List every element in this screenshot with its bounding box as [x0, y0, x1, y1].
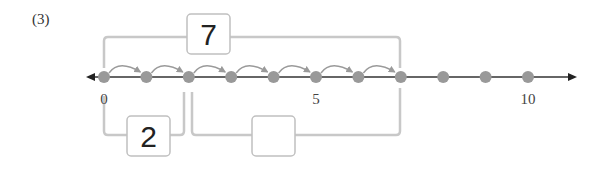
point-1: [140, 71, 152, 83]
tick-label-0: 0: [100, 91, 108, 107]
total-bracket: [104, 37, 400, 68]
hop-arrow-icon: [279, 66, 310, 73]
point-9: [480, 71, 492, 83]
number-line-diagram: 7 2 0510: [0, 0, 604, 172]
hop-arrow-icon: [194, 66, 225, 73]
right-arrow-icon: [568, 73, 577, 81]
part-a-value: 2: [140, 120, 157, 153]
number-line-axis: [86, 73, 577, 81]
point-5: [310, 71, 322, 83]
tick-labels: 0510: [100, 91, 535, 107]
point-8: [437, 71, 449, 83]
point-10: [522, 71, 534, 83]
point-2: [183, 71, 195, 83]
hop-arrow-icon: [321, 66, 352, 73]
tick-label-5: 5: [312, 91, 320, 107]
hop-arrow-icon: [236, 66, 267, 73]
point-0: [98, 71, 110, 83]
point-7: [395, 71, 407, 83]
hop-arrows: [109, 66, 395, 73]
left-arrow-icon: [86, 73, 95, 81]
point-4: [268, 71, 280, 83]
part-b-bracket: [192, 88, 400, 135]
hop-arrow-icon: [109, 66, 140, 73]
part-a-answer-box[interactable]: 2: [127, 116, 170, 156]
total-answer-box[interactable]: 7: [187, 14, 230, 54]
total-value: 7: [200, 18, 217, 51]
point-6: [352, 71, 364, 83]
hop-arrow-icon: [363, 66, 394, 73]
hop-arrow-icon: [151, 66, 182, 73]
tick-label-10: 10: [521, 91, 536, 107]
point-3: [225, 71, 237, 83]
part-b-answer-box[interactable]: [252, 116, 295, 156]
